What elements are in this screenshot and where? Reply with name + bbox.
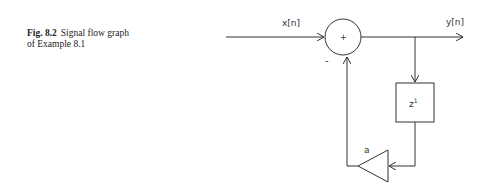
input-label: x[n] (282, 18, 300, 28)
signal-flow-graph: x[n] y[n] + - z1 a (0, 0, 486, 195)
feedback-minus: - (325, 55, 329, 66)
feedback-line (347, 57, 358, 166)
delay-out-line (389, 122, 415, 166)
output-label: y[n] (446, 17, 464, 27)
gain-triangle (358, 150, 388, 182)
adder-plus: + (340, 33, 347, 42)
gain-label: a (364, 145, 370, 155)
